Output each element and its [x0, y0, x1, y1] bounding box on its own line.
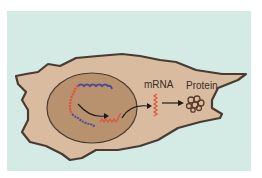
- nucleus: [47, 73, 137, 143]
- mrna-label: mRNA: [144, 79, 174, 90]
- cell-diagram: mRNA Protein: [0, 0, 262, 178]
- protein-label: Protein: [186, 80, 218, 91]
